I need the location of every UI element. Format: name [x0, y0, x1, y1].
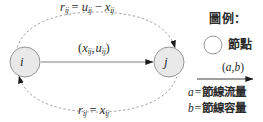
equals-sign: = [69, 0, 82, 14]
node-j-circle [154, 47, 184, 77]
equals-sign: = [87, 103, 100, 117]
legend-a-text: 節線流量 [202, 85, 246, 99]
a-symbol: a [188, 86, 194, 98]
node-i-circle [10, 47, 40, 77]
residual-backward-arc-label: rij=xij [78, 104, 109, 117]
legend-b-text: 節線容量 [202, 101, 246, 115]
node-j-label: j [164, 55, 168, 68]
residual-forward-arc-label: rij=uij−xij [60, 1, 114, 14]
legend-definition-a: a=節線流量 [188, 87, 246, 99]
minus-sign: − [92, 0, 105, 14]
legend-definition-b: b=節線容量 [188, 103, 246, 115]
legend-node-label: 節點 [228, 39, 252, 51]
b-symbol: b [188, 102, 194, 114]
legend-title: 圖例： [209, 13, 247, 25]
node-i-label: i [20, 55, 24, 68]
x-subscript: ij [110, 6, 114, 15]
legend-node-circle-icon [204, 36, 222, 54]
forward-arc-label: (xij,uij) [78, 42, 110, 55]
x-subscript: ij [105, 109, 109, 118]
equals-sign: = [194, 86, 203, 98]
paren-close: ) [240, 61, 244, 73]
legend-arc-label: (a,b) [222, 62, 244, 74]
equals-sign: = [194, 102, 203, 114]
paren-close: ) [106, 41, 110, 55]
